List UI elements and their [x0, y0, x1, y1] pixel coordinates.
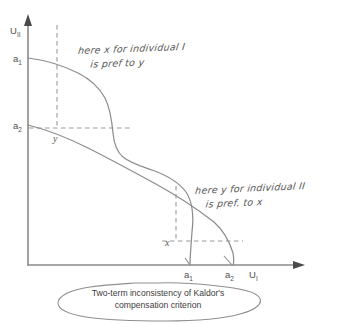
axes-group — [24, 14, 305, 269]
frontier-curve-2 — [28, 125, 234, 265]
caption-ellipse-outline — [58, 283, 260, 321]
point-label-x: x — [164, 237, 170, 248]
y-axis-label: UII — [10, 25, 21, 38]
y-tick-label-a1: a1 — [13, 53, 22, 66]
guide-lines-group — [29, 25, 243, 241]
tickmark-a1 — [185, 258, 190, 265]
frontier-curve-1 — [28, 58, 193, 265]
tickmark-a2 — [224, 256, 232, 265]
x-axis-tickmarks — [185, 256, 232, 265]
diagram-canvas: UII UI a1 a2 a1 a2 y x — [0, 0, 358, 324]
x-axis-label: UI — [249, 269, 258, 282]
x-tick-label-a2: a2 — [225, 269, 234, 282]
y-tick-label-a2: a2 — [13, 120, 22, 133]
x-tick-label-a1: a1 — [184, 269, 193, 282]
y-axis-arrowhead — [24, 14, 32, 26]
point-label-y: y — [52, 133, 58, 144]
x-axis-arrowhead — [293, 261, 305, 269]
figure-root: UII UI a1 a2 a1 a2 y x — [0, 0, 358, 324]
